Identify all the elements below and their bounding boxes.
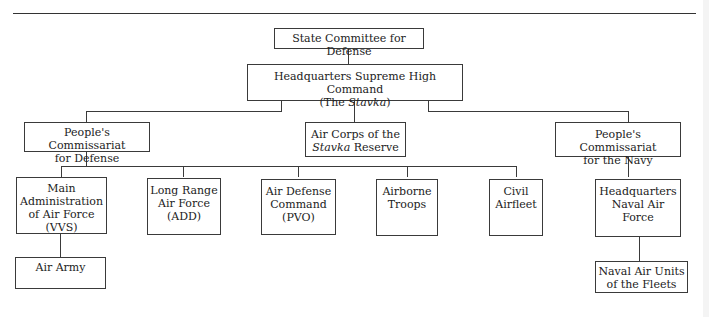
node-label: of the Fleets xyxy=(596,278,687,291)
node-label: State Committee for Defense xyxy=(275,32,423,58)
node-label: Airborne xyxy=(377,185,437,198)
node-label: for Defense xyxy=(25,152,149,165)
connector xyxy=(407,166,408,177)
node-label: Naval Air xyxy=(596,198,680,211)
connector xyxy=(428,111,629,112)
node-label: Airfleet xyxy=(490,198,542,211)
node-pvo: Air Defense Command (PVO) xyxy=(261,179,336,235)
connector xyxy=(61,166,62,177)
node-label: Air Force xyxy=(148,197,220,210)
page-edge-shadow xyxy=(703,0,709,317)
node-vvs: Main Administration of Air Force (VVS) xyxy=(16,177,107,234)
node-label: (ADD) xyxy=(148,210,220,223)
connector xyxy=(183,166,184,177)
node-label: People's Commissariat xyxy=(25,126,149,152)
node-label: of Air Force xyxy=(17,208,106,221)
connector xyxy=(639,236,640,261)
connector xyxy=(86,111,87,122)
node-naval-air-units: Naval Air Units of the Fleets xyxy=(595,261,688,293)
node-label: for the Navy xyxy=(556,154,680,167)
node-state-committee: State Committee for Defense xyxy=(274,28,424,49)
node-civil-airfleet: Civil Airfleet xyxy=(489,179,543,236)
node-label: Naval Air Units xyxy=(596,265,687,278)
node-label: Air Army xyxy=(16,261,105,274)
connector xyxy=(86,111,282,112)
connector xyxy=(628,111,629,122)
connector xyxy=(61,166,517,167)
connector xyxy=(60,233,61,257)
node-label: Main xyxy=(17,182,106,195)
node-label: Administration xyxy=(17,195,106,208)
node-label: Stavka Reserve xyxy=(306,141,405,154)
node-pc-navy: People's Commissariat for the Navy xyxy=(555,122,681,157)
connector xyxy=(516,166,517,177)
node-stavka: Headquarters Supreme High Command (The S… xyxy=(247,64,463,101)
node-label: Troops xyxy=(377,198,437,211)
node-label: Headquarters Supreme High Command xyxy=(248,70,462,96)
node-label: (VVS) xyxy=(17,221,106,234)
node-label: Headquarters xyxy=(596,185,680,198)
node-label: Force xyxy=(596,211,680,224)
node-label: Long Range xyxy=(148,184,220,197)
node-pc-defense: People's Commissariat for Defense xyxy=(24,122,150,152)
node-label-sub: (The Stavka) xyxy=(248,96,462,109)
node-air-corps-reserve: Air Corps of the Stavka Reserve xyxy=(305,122,406,157)
node-label: Command xyxy=(262,198,335,211)
node-label: Air Corps of the xyxy=(306,128,405,141)
node-label: (PVO) xyxy=(262,211,335,224)
connector xyxy=(298,166,299,177)
node-label: People's Commissariat xyxy=(556,128,680,154)
node-label: Air Defense xyxy=(262,185,335,198)
node-label: Civil xyxy=(490,185,542,198)
node-add: Long Range Air Force (ADD) xyxy=(147,178,221,235)
node-naval-hq: Headquarters Naval Air Force xyxy=(595,179,681,237)
node-air-army: Air Army xyxy=(15,257,106,289)
top-rule xyxy=(13,13,696,14)
node-airborne-troops: Airborne Troops xyxy=(376,179,438,236)
